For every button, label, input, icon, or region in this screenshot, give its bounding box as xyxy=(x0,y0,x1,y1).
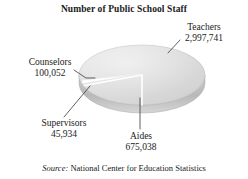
pie-slice-separators xyxy=(85,75,143,105)
source-note: Source: National Center for Education St… xyxy=(0,163,248,174)
pie-top-face xyxy=(79,45,205,105)
slice-label-teachers-name: Teachers xyxy=(165,22,243,33)
source-label: Source: xyxy=(42,163,68,173)
pie-side-wall xyxy=(79,75,205,113)
slice-label-aides-name: Aides xyxy=(108,131,174,142)
slice-label-supervisors: Supervisors 45,934 xyxy=(18,118,110,140)
slice-label-teachers: Teachers 2,997,741 xyxy=(165,22,243,44)
leader-line-supervisors xyxy=(64,86,90,117)
slice-label-counselors: Counselors 100,052 xyxy=(8,57,92,79)
source-text: National Center for Education Statistics xyxy=(68,163,206,173)
slice-label-aides-value: 675,038 xyxy=(108,142,174,153)
slice-label-supervisors-value: 45,934 xyxy=(18,129,110,140)
slice-label-supervisors-name: Supervisors xyxy=(18,118,110,129)
page-title: Number of Public School Staff xyxy=(0,3,248,15)
pie-chart-figure: Number of Public School Staff xyxy=(0,0,248,179)
slice-label-aides: Aides 675,038 xyxy=(108,131,174,153)
slice-label-counselors-value: 100,052 xyxy=(8,68,92,79)
slice-label-counselors-name: Counselors xyxy=(8,57,92,68)
leader-lines xyxy=(64,40,180,129)
slice-label-teachers-value: 2,997,741 xyxy=(165,33,243,44)
